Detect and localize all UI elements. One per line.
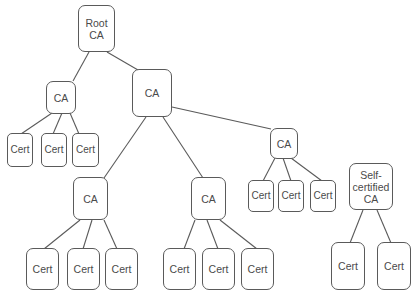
cert-node-c11: Cert	[202, 248, 235, 290]
edge-ca_main-to-ca_low1	[104, 117, 146, 178]
cert-node-c6: Cert	[310, 180, 336, 212]
ca-node-ca_low1: CA	[73, 177, 108, 220]
edge-ca_right-to-c5	[283, 158, 291, 181]
cert-node-c13: Cert	[331, 242, 365, 290]
cert-node-c2: Cert	[41, 133, 67, 167]
edge-ca_right-to-c4	[263, 158, 275, 181]
edge-ca_low2-to-c10	[184, 220, 195, 249]
edge-ca_low2-to-c12	[220, 220, 257, 249]
edge-ca_right-to-c6	[291, 158, 322, 181]
edge-ca_low1-to-c8	[83, 220, 92, 249]
ca-hierarchy-diagram: Root CACACACACACASelf- certified CACertC…	[0, 0, 417, 298]
edge-ca_low1-to-c7	[44, 220, 80, 249]
edge-ca_main-to-ca_low2	[163, 117, 203, 178]
edge-ca_left-to-c1	[21, 113, 52, 134]
cert-node-c9: Cert	[105, 248, 138, 290]
cert-node-c3: Cert	[72, 133, 99, 167]
ca-node-ca_self: Self- certified CA	[349, 163, 393, 210]
ca-node-ca_right: CA	[270, 128, 298, 159]
cert-node-c12: Cert	[241, 248, 274, 290]
cert-node-c14: Cert	[377, 242, 411, 290]
edge-ca_main-to-ca_right	[172, 107, 271, 129]
ca-node-ca_main: CA	[132, 69, 172, 117]
ca-node-ca_left: CA	[46, 81, 76, 114]
edge-root-to-ca_main	[107, 52, 138, 70]
edge-ca_left-to-c3	[70, 113, 79, 134]
ca-node-root: Root CA	[78, 5, 115, 52]
cert-node-c4: Cert	[248, 180, 274, 212]
edge-ca_left-to-c2	[53, 113, 62, 134]
ca-node-ca_low2: CA	[191, 177, 226, 220]
edge-ca_self-to-c13	[350, 210, 363, 243]
edge-ca_low2-to-c11	[207, 220, 218, 249]
cert-node-c5: Cert	[278, 180, 304, 212]
edge-root-to-ca_left	[73, 52, 89, 81]
edge-ca_low1-to-c9	[104, 220, 117, 249]
cert-node-c8: Cert	[67, 248, 100, 290]
cert-node-c1: Cert	[7, 133, 33, 167]
cert-node-c10: Cert	[163, 248, 196, 290]
cert-node-c7: Cert	[26, 248, 59, 290]
edge-ca_self-to-c14	[377, 210, 391, 243]
